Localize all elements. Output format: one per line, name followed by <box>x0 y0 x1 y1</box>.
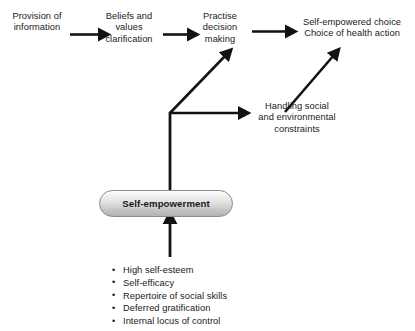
self-empowerment-box-label: Self-empowerment <box>122 198 209 209</box>
list-item: Deferred gratification <box>112 302 312 315</box>
node-handling-social-constraints: Handling social and environmental constr… <box>245 101 349 135</box>
connector-junction-to-practise <box>170 55 226 113</box>
attributes-list: High self-esteem Self-efficacy Repertoir… <box>112 264 312 328</box>
self-empowerment-box: Self-empowerment <box>99 190 233 217</box>
list-item: Internal locus of control <box>112 315 312 328</box>
list-item: High self-esteem <box>112 264 312 277</box>
node-practise-decision-making: Practise decision making <box>194 11 246 45</box>
list-item: Repertoire of social skills <box>112 290 312 303</box>
node-provision-of-information: Provision of information <box>4 11 70 34</box>
node-beliefs-and-values-clarification: Beliefs and values clarification <box>99 11 159 45</box>
node-self-empowered-choice: Self-empowered choice Choice of health a… <box>292 17 412 40</box>
list-item: Self-efficacy <box>112 277 312 290</box>
diagram-canvas: Provision of information Beliefs and val… <box>0 0 415 331</box>
